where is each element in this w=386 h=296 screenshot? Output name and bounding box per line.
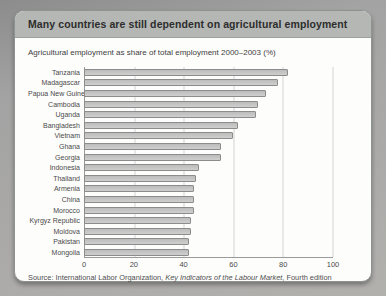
y-axis-label: Armenia: [28, 185, 84, 192]
x-tick-label: 40: [179, 260, 187, 269]
bar-row: Uganda: [28, 109, 358, 120]
x-tick-label: 0: [82, 260, 86, 269]
bar-tanzania: [84, 69, 288, 76]
x-tick-label: 80: [279, 260, 287, 269]
y-axis-label: Thailand: [28, 175, 84, 182]
bar-mongolia: [84, 249, 189, 256]
bar-row: Mongolia: [28, 247, 358, 258]
y-axis-label: Morocco: [28, 207, 84, 214]
bar-row: Madagascar: [28, 78, 358, 89]
bar-track: [84, 215, 333, 226]
bar-chart: TanzaniaMadagascarPapua New GuineaCambod…: [28, 67, 358, 258]
bar-row: Cambodia: [28, 99, 358, 110]
bar-papua-new-guinea: [84, 90, 266, 97]
y-axis-label: Uganda: [28, 111, 84, 118]
bar-kyrgyz-republic: [84, 217, 191, 224]
bar-track: [84, 131, 333, 142]
bar-track: [84, 88, 333, 99]
card-title: Many countries are still dependent on ag…: [28, 18, 347, 30]
bar-track: [84, 184, 333, 195]
x-tick-label: 60: [229, 260, 237, 269]
bar-track: [84, 141, 333, 152]
bar-track: [84, 173, 333, 184]
bar-indonesia: [84, 164, 199, 171]
bar-cambodia: [84, 101, 258, 108]
bar-row: Tanzania: [28, 67, 358, 78]
y-axis-label: Moldova: [28, 228, 84, 235]
bar-vietnam: [84, 132, 233, 139]
y-axis-label: Kyrgyz Republic: [28, 217, 84, 224]
y-axis-label: Bangladesh: [28, 122, 84, 129]
y-axis-label: Vietnam: [28, 132, 84, 139]
y-axis-label: Cambodia: [28, 101, 84, 108]
bar-row: Pakistan: [28, 237, 358, 248]
bar-row: Moldova: [28, 226, 358, 237]
bar-track: [84, 109, 333, 120]
y-axis-label: Indonesia: [28, 164, 84, 171]
bar-track: [84, 226, 333, 237]
bar-row: China: [28, 194, 358, 205]
bar-row: Ghana: [28, 141, 358, 152]
bar-bangladesh: [84, 122, 238, 129]
bar-moldova: [84, 228, 191, 235]
bar-thailand: [84, 175, 196, 182]
bar-row: Morocco: [28, 205, 358, 216]
bar-row: Indonesia: [28, 162, 358, 173]
y-axis-label: Ghana: [28, 143, 84, 150]
bar-track: [84, 78, 333, 89]
x-axis: 020406080100: [84, 258, 333, 271]
bar-ghana: [84, 143, 221, 150]
bar-track: [84, 237, 333, 248]
bar-track: [84, 205, 333, 216]
bar-pakistan: [84, 238, 189, 245]
bar-track: [84, 67, 333, 78]
y-axis-label: Papua New Guinea: [28, 90, 84, 97]
source-note: Source: International Labor Organization…: [28, 273, 358, 282]
bar-china: [84, 196, 194, 203]
x-tick-label: 20: [130, 260, 138, 269]
source-book-title: Key Indicators of the Labour Market: [165, 273, 282, 282]
source-suffix: , Fourth edition: [282, 273, 331, 282]
bar-row: Armenia: [28, 184, 358, 195]
card-header: Many countries are still dependent on ag…: [15, 11, 371, 38]
bar-track: [84, 162, 333, 173]
bar-georgia: [84, 154, 221, 161]
bar-track: [84, 120, 333, 131]
chart-card: Many countries are still dependent on ag…: [14, 10, 372, 282]
source-prefix: Source: International Labor Organization…: [28, 273, 165, 282]
bar-row: Vietnam: [28, 131, 358, 142]
bar-row: Bangladesh: [28, 120, 358, 131]
bar-madagascar: [84, 79, 278, 86]
x-tick-label: 100: [327, 260, 340, 269]
bar-track: [84, 194, 333, 205]
chart-rows: TanzaniaMadagascarPapua New GuineaCambod…: [28, 67, 358, 258]
bar-track: [84, 99, 333, 110]
bar-row: Georgia: [28, 152, 358, 163]
bar-morocco: [84, 207, 194, 214]
y-axis-label: Pakistan: [28, 238, 84, 245]
bar-uganda: [84, 111, 256, 118]
y-axis-label: Tanzania: [28, 69, 84, 76]
y-axis-label: Mongolia: [28, 249, 84, 256]
bar-row: Kyrgyz Republic: [28, 215, 358, 226]
bar-row: Papua New Guinea: [28, 88, 358, 99]
y-axis-label: Georgia: [28, 154, 84, 161]
bar-row: Thailand: [28, 173, 358, 184]
y-axis-label: Madagascar: [28, 79, 84, 86]
y-axis-label: China: [28, 196, 84, 203]
bar-track: [84, 152, 333, 163]
card-body: Agricultural employment as share of tota…: [15, 48, 371, 282]
bar-armenia: [84, 185, 194, 192]
chart-subtitle: Agricultural employment as share of tota…: [28, 48, 358, 57]
bar-track: [84, 247, 333, 258]
